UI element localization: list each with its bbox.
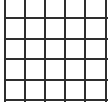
grid-vertical-line xyxy=(4,0,6,102)
grid-horizontal-line xyxy=(5,58,108,60)
grid xyxy=(0,0,109,110)
grid-vertical-line xyxy=(24,0,26,102)
grid-vertical-line xyxy=(44,0,46,102)
grid-horizontal-line xyxy=(5,17,108,19)
grid-vertical-line xyxy=(64,0,66,102)
grid-horizontal-line xyxy=(5,38,108,40)
grid-vertical-line xyxy=(84,0,86,102)
grid-vertical-line xyxy=(105,0,107,102)
grid-horizontal-line xyxy=(5,79,108,81)
grid-horizontal-line xyxy=(5,99,108,101)
